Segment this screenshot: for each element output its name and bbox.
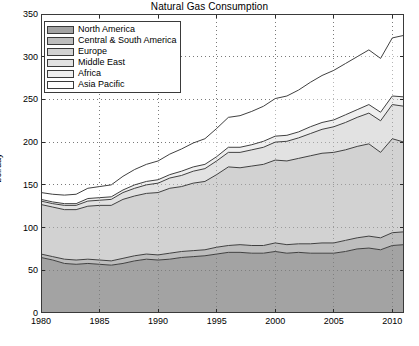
- x-tick-label: 2005: [324, 316, 344, 326]
- legend-label: Asia Pacific: [78, 80, 125, 89]
- legend-label: North America: [78, 25, 135, 34]
- legend-swatch: [47, 59, 74, 67]
- chart-figure: Natural Gas Consumption bcf/day 05010015…: [0, 0, 419, 346]
- legend-item: Asia Pacific: [47, 79, 177, 90]
- legend-label: Europe: [78, 47, 107, 56]
- x-tick-label: 1990: [148, 316, 168, 326]
- legend-label: Central & South America: [78, 36, 177, 45]
- legend-swatch: [47, 37, 74, 45]
- legend-swatch: [47, 81, 74, 89]
- y-tick-label: 100: [0, 223, 38, 233]
- legend-swatch: [47, 48, 74, 56]
- x-tick-label: 2000: [265, 316, 285, 326]
- legend-item: Central & South America: [47, 35, 177, 46]
- y-axis-title: bcf/day: [0, 153, 3, 182]
- legend-item: Africa: [47, 68, 177, 79]
- x-tick-label: 1985: [90, 316, 110, 326]
- y-tick-label: 350: [0, 9, 38, 19]
- legend-item: North America: [47, 24, 177, 35]
- y-tick-label: 200: [0, 137, 38, 147]
- legend-label: Africa: [78, 69, 101, 78]
- x-tick-label: 1980: [31, 316, 51, 326]
- legend-swatch: [47, 70, 74, 78]
- legend-item: Middle East: [47, 57, 177, 68]
- legend: North AmericaCentral & South AmericaEuro…: [44, 21, 181, 93]
- y-tick-label: 300: [0, 52, 38, 62]
- legend-item: Europe: [47, 46, 177, 57]
- x-tick-label: 2010: [382, 316, 402, 326]
- legend-label: Middle East: [78, 58, 125, 67]
- x-tick-label: 1995: [207, 316, 227, 326]
- y-tick-label: 50: [0, 265, 38, 275]
- y-tick-label: 250: [0, 94, 38, 104]
- chart-title: Natural Gas Consumption: [0, 1, 419, 12]
- y-tick-label: 150: [0, 180, 38, 190]
- legend-swatch: [47, 26, 74, 34]
